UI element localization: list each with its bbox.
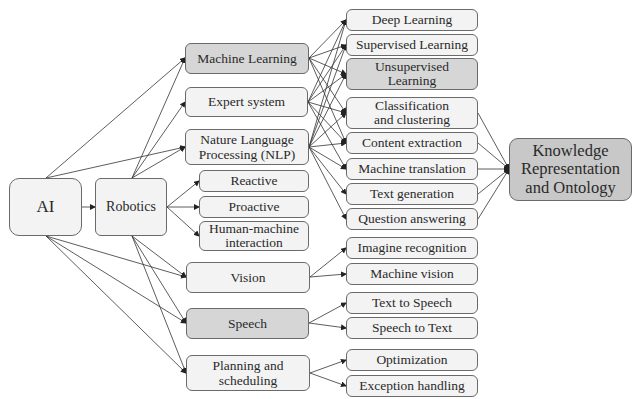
edge-vision-ir	[310, 248, 346, 277]
edge-speech-stt	[309, 323, 346, 328]
node-deep-learning: Deep Learning	[346, 9, 478, 31]
edge-ml-sl	[309, 45, 346, 58]
node-label: Nature Language	[200, 132, 293, 147]
node-label: Representation	[521, 160, 620, 178]
node-imagine-recognition: Imagine recognition	[346, 237, 478, 259]
edge-tg-kro	[478, 169, 509, 194]
edge-planning-eh	[310, 373, 346, 386]
edge-cc-kro	[478, 113, 509, 169]
node-label: Text to Speech	[372, 295, 452, 310]
edge-vision-mv	[310, 274, 346, 277]
edge-robotics-ml	[132, 58, 185, 178]
edge-robotics-es	[132, 102, 185, 178]
node-content-extraction: Content extraction	[346, 132, 478, 154]
node-label: Human-machine	[209, 222, 299, 236]
node-label: Unsupervised	[375, 60, 449, 74]
node-label: Proactive	[229, 199, 280, 214]
node-label: Classification	[375, 99, 449, 113]
node-planning-scheduling: Planning andscheduling	[186, 355, 310, 391]
node-human-machine-interaction: Human-machineinteraction	[199, 221, 309, 251]
node-label: and clustering	[374, 113, 450, 127]
node-label: Speech	[228, 316, 267, 331]
edge-ai-speech	[46, 236, 186, 323]
edge-ce-kro	[478, 143, 509, 169]
node-machine-translation: Machine translation	[346, 158, 478, 180]
node-nlp: Nature LanguageProcessing (NLP)	[185, 129, 309, 165]
node-label: Knowledge	[532, 142, 608, 160]
node-text-generation: Text generation	[346, 183, 478, 205]
node-label: Content extraction	[362, 135, 462, 150]
node-label: AI	[37, 197, 55, 216]
node-exception-handling: Exception handling	[346, 375, 478, 397]
node-speech-to-text: Speech to Text	[346, 317, 478, 339]
node-label: Optimization	[376, 352, 447, 367]
node-label: Machine translation	[358, 161, 466, 176]
node-label: Machine vision	[370, 266, 454, 281]
node-question-answering: Question answering	[346, 208, 478, 230]
node-vision: Vision	[186, 262, 310, 293]
node-label: Exception handling	[359, 378, 464, 393]
node-label: Expert system	[208, 94, 285, 109]
node-label: Imagine recognition	[357, 240, 466, 255]
node-optimization: Optimization	[346, 349, 478, 371]
node-expert-system: Expert system	[185, 87, 308, 117]
node-knowledge-representation-ontology: KnowledgeRepresentationand Ontology	[509, 138, 632, 201]
node-label: Question answering	[358, 211, 466, 226]
edge-robotics-speech	[132, 236, 186, 323]
node-proactive: Proactive	[199, 196, 309, 218]
node-robotics: Robotics	[95, 178, 167, 236]
node-machine-learning: Machine Learning	[185, 43, 309, 74]
edge-speech-tts	[309, 303, 346, 323]
node-label: scheduling	[219, 373, 278, 388]
node-label: Planning and	[213, 358, 284, 373]
node-label: Supervised Learning	[356, 37, 468, 52]
node-label: Machine Learning	[197, 51, 296, 66]
node-text-to-speech: Text to Speech	[346, 292, 478, 314]
node-machine-vision: Machine vision	[346, 263, 478, 285]
edge-robotics-nlp	[132, 147, 185, 178]
node-reactive: Reactive	[199, 170, 309, 192]
node-label: Vision	[230, 270, 265, 285]
edge-nlp-ce	[309, 143, 346, 147]
node-label: Robotics	[106, 199, 156, 215]
node-label: Reactive	[230, 173, 277, 188]
edge-ai-nlp	[46, 147, 185, 178]
node-label: Learning	[388, 74, 437, 88]
edge-robotics-reactive	[167, 181, 199, 207]
edge-qa-kro	[478, 169, 509, 219]
node-label: and Ontology	[525, 179, 615, 197]
edge-planning-opt	[310, 360, 346, 373]
node-label: interaction	[225, 236, 283, 250]
edge-ai-ml	[46, 58, 185, 178]
node-label: Processing (NLP)	[199, 147, 295, 162]
node-label: Deep Learning	[372, 12, 453, 27]
node-label: Text generation	[370, 186, 454, 201]
node-unsupervised-learning: UnsupervisedLearning	[346, 58, 478, 90]
edge-robotics-hmi	[167, 207, 199, 236]
node-speech: Speech	[186, 308, 309, 339]
node-classification-clustering: Classificationand clustering	[346, 97, 478, 129]
node-supervised-learning: Supervised Learning	[346, 34, 478, 56]
node-ai: AI	[9, 178, 82, 236]
node-label: Speech to Text	[372, 320, 452, 335]
edge-nlp-tg	[309, 147, 346, 194]
